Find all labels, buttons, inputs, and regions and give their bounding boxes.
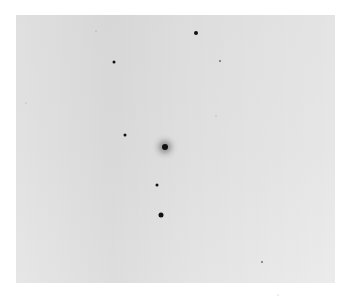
star — [216, 116, 217, 117]
star — [124, 134, 127, 137]
star — [26, 103, 27, 104]
star-field-image — [16, 15, 335, 283]
star — [162, 144, 168, 150]
star — [113, 61, 116, 64]
star — [219, 60, 221, 62]
star — [96, 31, 97, 32]
star — [261, 261, 263, 263]
star — [194, 31, 198, 35]
star — [278, 295, 279, 296]
star — [159, 213, 164, 218]
star — [156, 184, 159, 187]
